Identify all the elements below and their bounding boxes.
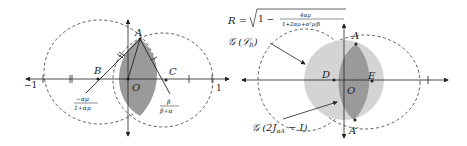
diagram-canvas: A B C O −1 1 −αμ 1+αμ β β+α A A′ D bbox=[0, 0, 467, 146]
c-fraction-den: β+α bbox=[159, 107, 173, 115]
b-fraction-den: 1+αμ bbox=[74, 104, 91, 112]
b-fraction-num: −αμ bbox=[76, 95, 89, 103]
point-o-label: O bbox=[347, 85, 355, 96]
point-b-label: B bbox=[93, 65, 101, 76]
point-e-label: E bbox=[367, 70, 376, 81]
shaded-lens bbox=[119, 38, 157, 116]
label-g-j: 𝒢 (2JαA − I) bbox=[252, 122, 308, 134]
left-diagram: A B C O −1 1 −αμ 1+αμ β β+α bbox=[24, 20, 229, 136]
arrow-to-lr bbox=[270, 43, 305, 64]
formula-num: 4αμ bbox=[299, 12, 311, 19]
c-fraction-num: β bbox=[166, 98, 171, 106]
svg-text:1 −: 1 − bbox=[258, 14, 274, 24]
point-c-label: C bbox=[169, 66, 177, 77]
tick-minus-one: −1 bbox=[24, 80, 37, 90]
point-o-label: O bbox=[132, 82, 140, 93]
point-d-label: D bbox=[321, 69, 330, 80]
point-a-label: A bbox=[134, 27, 142, 38]
tick-one: 1 bbox=[216, 83, 222, 93]
formula-lhs: R = bbox=[227, 15, 247, 26]
right-diagram: A A′ D E O R = 1 − 4αμ 1+2αμ+α²μ/β 𝒢 (ℒR… bbox=[227, 9, 448, 138]
formula-den: 1+2αμ+α²μ/β bbox=[282, 21, 320, 28]
point-a-label: A bbox=[351, 30, 359, 41]
label-g-lr: 𝒢 (ℒR) bbox=[228, 36, 258, 48]
point-a-prime-label: A′ bbox=[348, 125, 359, 136]
